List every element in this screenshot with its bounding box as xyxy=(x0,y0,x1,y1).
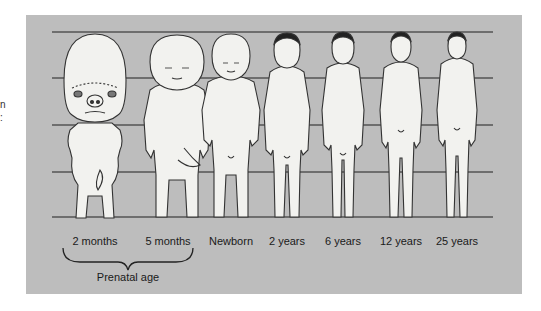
proportion-figures xyxy=(0,0,541,311)
figure-newborn xyxy=(202,34,260,217)
stage-label-6-years: 6 years xyxy=(325,235,361,247)
prenatal-age-label: Prenatal age xyxy=(97,271,159,283)
figure-2-months xyxy=(64,34,126,218)
stage-label-12-years: 12 years xyxy=(380,235,422,247)
figure-12-years xyxy=(380,32,422,217)
stage-label-5-months: 5 months xyxy=(145,235,190,247)
figure-2-years xyxy=(264,33,310,217)
stage-label-25-years: 25 years xyxy=(436,235,478,247)
prenatal-brace xyxy=(63,248,193,270)
figure-25-years xyxy=(437,32,477,217)
stage-label-newborn: Newborn xyxy=(209,235,253,247)
stage-label-2-months: 2 months xyxy=(72,235,117,247)
figure-5-months xyxy=(144,35,210,217)
stage-label-2-years: 2 years xyxy=(269,235,305,247)
figure-6-years xyxy=(322,32,364,217)
